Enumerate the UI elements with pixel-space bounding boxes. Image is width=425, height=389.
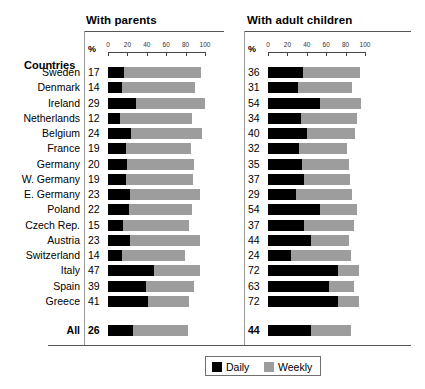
value-parents-france: 19	[88, 142, 100, 154]
bar-row: Spain3963	[0, 280, 425, 294]
bar-children	[268, 98, 361, 109]
bar-row: Italy4772	[0, 264, 425, 278]
bar-parents	[108, 67, 201, 78]
bar-segment-daily	[108, 113, 120, 124]
row-label-w-germany: W. Germany	[0, 173, 80, 185]
bar-segment-daily	[108, 325, 133, 336]
bar-children	[268, 325, 351, 336]
legend-label-weekly: Weekly	[278, 361, 312, 373]
bar-segment-daily	[268, 113, 301, 124]
bar-children	[268, 250, 351, 261]
value-children-netherlands: 34	[248, 112, 260, 124]
bar-children	[268, 113, 357, 124]
row-label-germany: Germany	[0, 158, 80, 170]
bar-segment-daily	[268, 325, 311, 336]
bar-row: E. Germany2329	[0, 188, 425, 202]
bar-row: Czech Rep.1537	[0, 219, 425, 233]
row-label-italy: Italy	[0, 264, 80, 276]
value-children-denmark: 31	[248, 81, 260, 93]
bar-segment-daily	[268, 143, 299, 154]
bar-children	[268, 235, 349, 246]
bar-parents	[108, 265, 200, 276]
axis-tick-20	[287, 52, 288, 56]
bar-segment-daily	[108, 143, 126, 154]
row-label-netherlands: Netherlands	[0, 112, 80, 124]
bar-children	[268, 281, 354, 292]
panel-title-with-adult-children: With adult children	[247, 14, 352, 26]
bar-segment-daily	[268, 174, 304, 185]
row-label-france: France	[0, 142, 80, 154]
bar-segment-daily	[108, 265, 154, 276]
bar-children	[268, 296, 359, 307]
row-label-belgium: Belgium	[0, 127, 80, 139]
row-label-sweden: Sweden	[0, 66, 80, 78]
axis-tick-label-0: 0	[266, 41, 270, 48]
value-parents-denmark: 14	[88, 81, 100, 93]
bar-segment-daily	[108, 250, 122, 261]
row-label-czech-rep: Czech Rep.	[0, 219, 80, 231]
legend-label-daily: Daily	[226, 361, 249, 373]
value-children-czech-rep: 37	[248, 219, 260, 231]
value-children-sweden: 36	[248, 66, 260, 78]
value-children-belgium: 40	[248, 127, 260, 139]
axis-tick-60	[166, 52, 167, 56]
axis-tick-label-80: 80	[342, 41, 349, 48]
value-children-switzerland: 24	[248, 249, 260, 261]
value-children-e-germany: 29	[248, 188, 260, 200]
bar-row: W. Germany1937	[0, 173, 425, 187]
value-parents-greece: 41	[88, 295, 100, 307]
bar-row: Sweden1736	[0, 66, 425, 80]
bar-segment-daily	[108, 296, 148, 307]
bar-segment-daily	[108, 281, 146, 292]
value-parents-italy: 47	[88, 264, 100, 276]
bar-children	[268, 159, 349, 170]
bar-children	[268, 174, 350, 185]
bar-segment-daily	[108, 159, 127, 170]
value-parents-netherlands: 12	[88, 112, 100, 124]
bar-row: Austria2344	[0, 234, 425, 248]
axis-with-parents: % 020406080100	[88, 41, 208, 57]
bar-children	[268, 143, 347, 154]
panel-title-underline-left	[84, 31, 224, 32]
bar-segment-daily	[268, 128, 307, 139]
value-children-spain: 63	[248, 280, 260, 292]
value-children-all: 44	[248, 324, 260, 336]
bar-segment-daily	[268, 220, 304, 231]
axis-tick-40	[307, 52, 308, 56]
bar-parents	[108, 296, 189, 307]
value-parents-all: 26	[88, 324, 100, 336]
value-children-w-germany: 37	[248, 173, 260, 185]
bar-parents	[108, 143, 191, 154]
bar-children	[268, 189, 352, 200]
axis-line-right	[268, 52, 365, 53]
axis-line-left	[108, 52, 205, 53]
axis-unit-label-left: %	[88, 44, 96, 54]
axis-tick-label-20: 20	[124, 41, 131, 48]
axis-unit-label-right: %	[248, 44, 256, 54]
bar-row: France1932	[0, 142, 425, 156]
axis-tick-label-20: 20	[284, 41, 291, 48]
value-parents-germany: 20	[88, 158, 100, 170]
axis-tick-label-60: 60	[163, 41, 170, 48]
axis-tick-label-40: 40	[143, 41, 150, 48]
panel-title-with-parents: With parents	[86, 14, 157, 26]
bar-segment-daily	[108, 128, 131, 139]
row-label-switzerland: Switzerland	[0, 249, 80, 261]
value-children-france: 32	[248, 142, 260, 154]
bar-parents	[108, 159, 194, 170]
bar-segment-daily	[268, 189, 296, 200]
bar-segment-daily	[108, 220, 123, 231]
axis-tick-label-100: 100	[200, 41, 211, 48]
value-parents-ireland: 29	[88, 97, 100, 109]
value-children-greece: 72	[248, 295, 260, 307]
axis-tick-0	[268, 52, 269, 56]
axis-tick-100	[205, 52, 206, 56]
axis-tick-80	[186, 52, 187, 56]
bar-segment-daily	[268, 98, 320, 109]
bar-row: Ireland2954	[0, 97, 425, 111]
bar-parents	[108, 98, 205, 109]
bar-segment-daily	[108, 235, 130, 246]
bar-segment-daily	[108, 204, 129, 215]
bar-parents	[108, 204, 192, 215]
value-children-ireland: 54	[248, 97, 260, 109]
